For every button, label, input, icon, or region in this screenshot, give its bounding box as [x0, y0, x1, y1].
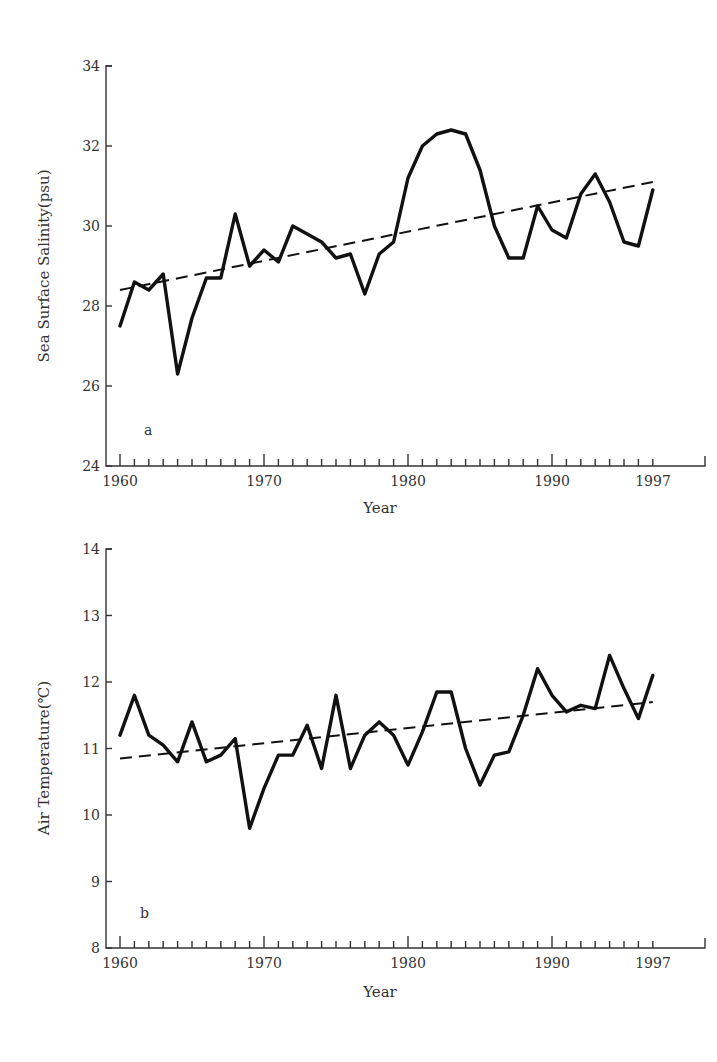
axis-frame-b: [106, 549, 705, 948]
y-ticks-a: [106, 66, 112, 466]
y-ticks-b: [106, 549, 112, 948]
y-axis-title-a: Sea Surface Salinity(psu): [35, 170, 53, 363]
salinity-series-line: [120, 130, 653, 374]
y-tick-label: 34: [82, 58, 100, 74]
x-tick-label: 1970: [246, 955, 282, 971]
y-tick-label: 26: [82, 378, 100, 394]
trend-line-a: [120, 182, 653, 290]
x-tick-label: 1970: [246, 473, 282, 489]
y-tick-label: 28: [82, 298, 100, 314]
x-tick-label: 1980: [390, 955, 426, 971]
x-tick-label: 1990: [534, 473, 570, 489]
x-axis-title-a: Year: [362, 499, 397, 517]
y-tick-label: 12: [82, 674, 100, 690]
y-tick-label: 13: [82, 608, 100, 624]
x-tick-label: 1960: [102, 473, 138, 489]
axis-frame-a: [106, 66, 705, 466]
y-tick-label: 11: [82, 741, 100, 757]
panel-label-b: b: [140, 905, 149, 921]
y-tick-label: 24: [82, 458, 100, 474]
x-tick-label: 1997: [635, 955, 671, 971]
chart-panel-b: 8 9 10 11 12 13 14 1960 1970 1980 1990 1…: [35, 541, 705, 1001]
panel-label-a: a: [144, 422, 152, 438]
x-axis-title-b: Year: [362, 983, 397, 1001]
air-temperature-series-line: [120, 655, 653, 828]
y-tick-label: 10: [82, 807, 100, 823]
x-tick-label: 1980: [390, 473, 426, 489]
x-minor-ticks-b: [120, 936, 653, 948]
x-minor-ticks-a: [120, 454, 653, 466]
x-tick-label: 1997: [635, 473, 671, 489]
y-tick-label: 30: [82, 218, 100, 234]
y-tick-label: 9: [91, 874, 100, 890]
x-tick-label: 1990: [534, 955, 570, 971]
y-tick-label: 8: [91, 940, 100, 956]
y-axis-title-b: Air Temperature(℃): [35, 681, 53, 836]
y-tick-label: 14: [82, 541, 100, 557]
y-tick-label: 32: [82, 138, 100, 154]
figure: 24 26 28 30 32 34 1960 1970 1980 1990 19…: [0, 0, 717, 1062]
x-tick-label: 1960: [102, 955, 138, 971]
chart-panel-a: 24 26 28 30 32 34 1960 1970 1980 1990 19…: [35, 58, 705, 517]
